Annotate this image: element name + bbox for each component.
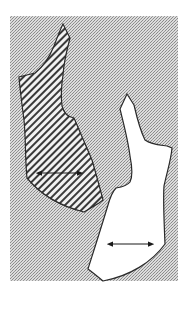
diagram-figure	[0, 0, 188, 309]
